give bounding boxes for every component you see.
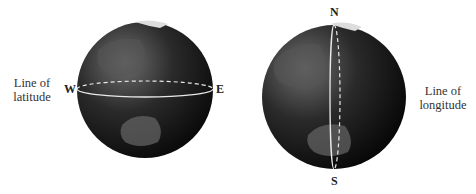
- latitude-caption-line1: Line of: [2, 76, 62, 90]
- south-label: S: [331, 174, 338, 189]
- north-label: N: [330, 5, 339, 20]
- west-label: W: [64, 82, 76, 97]
- east-label: E: [216, 82, 224, 97]
- latitude-caption-line2: latitude: [2, 90, 62, 104]
- longitude-caption: Line of longitude: [412, 84, 474, 112]
- longitude-caption-line2: longitude: [412, 98, 474, 112]
- globes-diagram: [0, 0, 476, 194]
- latitude-globe: [77, 20, 213, 158]
- longitude-globe: [262, 23, 406, 169]
- latitude-caption: Line of latitude: [2, 76, 62, 104]
- longitude-caption-line1: Line of: [412, 84, 474, 98]
